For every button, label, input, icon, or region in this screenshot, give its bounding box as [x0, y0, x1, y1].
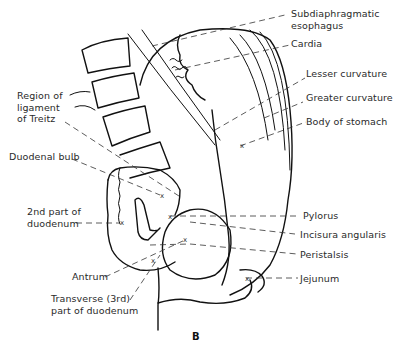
svg-text:x: x	[120, 219, 124, 227]
label-body-of-stomach: Body of stomach	[306, 116, 388, 128]
leader-lines	[65, 15, 306, 300]
label-lesser-curvature: Lesser curvature	[306, 68, 387, 80]
label-line: duodenum	[27, 218, 81, 230]
label-subdiaphragmatic-esophagus: Subdiaphragmatic esophagus	[291, 8, 380, 31]
label-jejunum: Jejunum	[300, 273, 339, 285]
label-incisura-angularis: Incisura angularis	[300, 229, 386, 241]
svg-text:x: x	[245, 275, 249, 283]
label-line: part of duodenum	[51, 305, 138, 317]
label-line: ligament	[17, 102, 63, 114]
label-line: Region of	[17, 90, 63, 102]
label-transverse-duodenum: Transverse (3rd) part of duodenum	[51, 293, 138, 316]
label-line: esophagus	[291, 20, 380, 32]
svg-text:x: x	[160, 192, 164, 200]
label-second-part-duodenum: 2nd part of duodenum	[27, 206, 81, 229]
label-duodenal-bulb: Duodenal bulb	[9, 151, 80, 163]
svg-text:x: x	[183, 236, 187, 244]
label-ligament-of-treitz: Region of ligament of Treitz	[17, 90, 63, 125]
label-line: 2nd part of	[27, 206, 81, 218]
panel-letter: B	[192, 331, 200, 342]
label-greater-curvature: Greater curvature	[306, 92, 393, 104]
label-line: Subdiaphragmatic	[291, 8, 380, 20]
svg-text:x: x	[151, 257, 155, 265]
label-peristalsis: Peristalsis	[300, 249, 349, 261]
label-line: Transverse (3rd)	[51, 293, 138, 305]
svg-text:x: x	[240, 142, 244, 150]
label-cardia: Cardia	[291, 38, 322, 50]
label-pylorus: Pylorus	[303, 210, 338, 222]
label-antrum: Antrum	[72, 271, 108, 283]
vertebral-column	[70, 38, 170, 178]
label-line: of Treitz	[17, 113, 63, 125]
svg-text:x: x	[168, 213, 172, 221]
